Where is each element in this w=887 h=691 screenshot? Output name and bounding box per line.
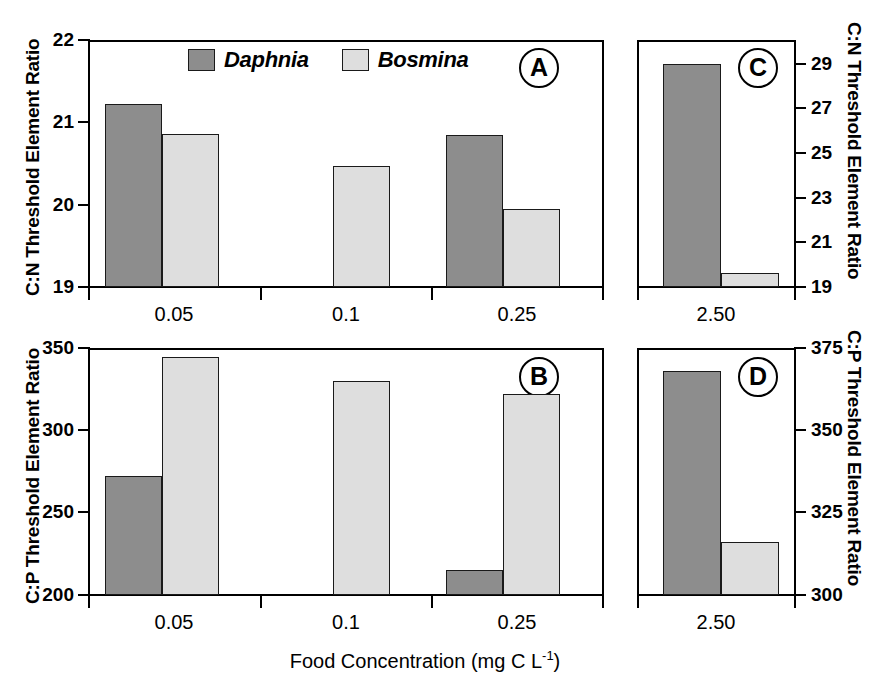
bar-panel-c-bosmina-2.50	[721, 273, 779, 287]
panel-a-tick-22	[78, 39, 90, 41]
x-axis-title-main: Food Concentration (mg C L	[290, 650, 542, 672]
legend-label-bosmina: Bosmina	[378, 47, 469, 73]
panel-b-ticklabel-250: 250	[14, 501, 74, 523]
panel-d-tick-375	[794, 347, 806, 349]
panel-b-xtick-0	[88, 596, 90, 608]
panel-a-xtick-0	[88, 288, 90, 300]
panel-a-ticklabel-22: 22	[34, 29, 74, 51]
panel-b-xtick-3	[602, 596, 604, 608]
panel-d-xtick-1	[794, 596, 796, 608]
legend: Daphnia Bosmina	[188, 47, 469, 73]
legend-swatch-daphnia	[188, 49, 215, 71]
panel-b-y-axis-title: C:P Threshold Element Ratio	[22, 348, 44, 604]
panel-a-category-0.25: 0.25	[467, 303, 567, 326]
panel-c-badge: C	[738, 48, 778, 88]
panel-b-tick-300	[78, 429, 90, 431]
panel-c-ticklabel-27: 27	[811, 97, 855, 119]
panel-a-badge: A	[519, 48, 559, 88]
bar-panel-a-bosmina-0.25	[503, 209, 560, 287]
panel-b-tick-350	[78, 347, 90, 349]
panel-d-ticklabel-325: 325	[811, 501, 877, 523]
panel-d-xtick-0	[637, 596, 639, 608]
panel-a-ticklabel-20: 20	[34, 194, 74, 216]
panel-b-ticklabel-350: 350	[14, 337, 74, 359]
panel-b-category-0.1: 0.1	[296, 611, 396, 634]
bar-panel-a-daphnia-0.25	[446, 135, 503, 287]
bar-panel-b-bosmina-0.05	[162, 357, 219, 595]
panel-b-tick-250	[78, 511, 90, 513]
panel-a-tick-21	[78, 121, 90, 123]
panel-a-category-0.05: 0.05	[124, 303, 224, 326]
panel-c-ticklabel-23: 23	[811, 187, 855, 209]
bar-panel-b-daphnia-0.25	[446, 570, 503, 595]
panel-a-xtick-2	[431, 288, 433, 300]
panel-a-ticklabel-21: 21	[34, 111, 74, 133]
panel-d-tick-350	[794, 429, 806, 431]
panel-c-ticklabel-25: 25	[811, 142, 855, 164]
x-axis-title-close: )	[554, 650, 561, 672]
panel-b-xtick-2	[431, 596, 433, 608]
panel-c-tick-21	[794, 241, 806, 243]
bar-panel-d-daphnia-2.50	[663, 371, 721, 595]
bar-panel-a-bosmina-0.1	[333, 166, 390, 287]
panel-d-category-2.50: 2.50	[666, 611, 766, 634]
panel-b-badge: B	[519, 357, 559, 397]
panel-c-tick-27	[794, 107, 806, 109]
panel-c-ticklabel-19: 19	[811, 276, 855, 298]
panel-a-xtick-3	[602, 288, 604, 300]
panel-c-tick-29	[794, 63, 806, 65]
legend-label-daphnia: Daphnia	[224, 47, 309, 73]
panel-b-ticklabel-200: 200	[14, 584, 74, 606]
panel-b-category-0.25: 0.25	[467, 611, 567, 634]
panel-b-ticklabel-300: 300	[14, 419, 74, 441]
panel-a-category-0.1: 0.1	[296, 303, 396, 326]
bar-panel-a-bosmina-0.05	[162, 134, 219, 287]
panel-a-ticklabel-19: 19	[34, 276, 74, 298]
bar-panel-c-daphnia-2.50	[663, 64, 721, 287]
x-axis-title-exponent: -1	[542, 648, 554, 663]
legend-swatch-bosmina	[342, 49, 369, 71]
panel-d-ticklabel-375: 375	[811, 337, 877, 359]
panel-b-xtick-1	[260, 596, 262, 608]
panel-b-category-0.05: 0.05	[124, 611, 224, 634]
bar-panel-d-bosmina-2.50	[721, 542, 779, 595]
panel-c-xtick-1	[794, 288, 796, 300]
panel-c-category-2.50: 2.50	[666, 303, 766, 326]
panel-d-ticklabel-350: 350	[811, 419, 877, 441]
bar-panel-a-daphnia-0.05	[105, 104, 162, 287]
figure-canvas: C:N Threshold Element Ratio 22 21 20 19 …	[0, 0, 887, 691]
panel-d-ticklabel-300: 300	[811, 584, 877, 606]
panel-a-xtick-1	[260, 288, 262, 300]
panel-a-tick-20	[78, 204, 90, 206]
panel-c-ticklabel-21: 21	[811, 231, 855, 253]
x-axis-title: Food Concentration (mg C L-1)	[195, 648, 655, 673]
bar-panel-b-bosmina-0.25	[503, 394, 560, 595]
panel-c-tick-23	[794, 197, 806, 199]
panel-d-badge: D	[738, 357, 778, 397]
panel-d-y-axis-title: C:P Threshold Element Ratio	[843, 330, 865, 586]
panel-c-ticklabel-29: 29	[811, 53, 855, 75]
bar-panel-b-bosmina-0.1	[333, 381, 390, 595]
panel-c-tick-25	[794, 152, 806, 154]
panel-a-y-axis-title: C:N Threshold Element Ratio	[22, 39, 44, 296]
bar-panel-b-daphnia-0.05	[105, 476, 162, 595]
panel-c-xtick-0	[637, 288, 639, 300]
panel-d-tick-325	[794, 511, 806, 513]
